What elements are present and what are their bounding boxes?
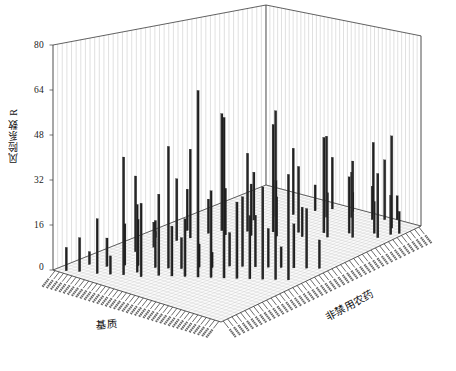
bar bbox=[272, 124, 274, 231]
bar bbox=[241, 197, 243, 267]
row-axis-title: 基质 bbox=[96, 315, 118, 331]
bar bbox=[287, 174, 289, 280]
bar bbox=[254, 215, 256, 267]
bar bbox=[106, 238, 108, 266]
bar bbox=[189, 149, 191, 238]
bar bbox=[197, 90, 199, 277]
bar bbox=[253, 172, 255, 220]
bar bbox=[306, 209, 308, 269]
bar bbox=[123, 157, 125, 275]
z-tick-64: 64 bbox=[22, 85, 44, 95]
figure-3d-bar-chart: 80 64 48 32 16 0 风险系数 R 基质 非禁用农药 bbox=[0, 0, 456, 371]
bar bbox=[221, 114, 223, 231]
chart-scene bbox=[0, 0, 456, 371]
bar bbox=[186, 189, 188, 230]
bar bbox=[293, 224, 295, 268]
bar bbox=[223, 117, 225, 278]
bar bbox=[352, 161, 354, 237]
bar bbox=[88, 252, 90, 265]
bar bbox=[348, 177, 350, 233]
bar bbox=[280, 247, 282, 268]
bar bbox=[65, 247, 67, 270]
bar bbox=[109, 256, 111, 274]
bar bbox=[384, 160, 386, 220]
bar bbox=[377, 174, 379, 238]
bar bbox=[396, 196, 398, 220]
bar bbox=[323, 137, 325, 232]
z-tick-32: 32 bbox=[22, 175, 44, 185]
z-tick-16: 16 bbox=[22, 220, 44, 230]
bar bbox=[246, 153, 248, 231]
bar bbox=[331, 157, 333, 209]
bar bbox=[314, 185, 316, 211]
bar bbox=[167, 146, 169, 268]
z-axis-ticks bbox=[50, 45, 54, 270]
bar bbox=[262, 187, 264, 279]
bar bbox=[371, 186, 373, 219]
bar bbox=[398, 211, 400, 233]
bar bbox=[229, 233, 231, 267]
bar bbox=[236, 202, 238, 278]
bar bbox=[158, 194, 160, 275]
bar bbox=[176, 179, 178, 241]
bar bbox=[140, 203, 142, 277]
bar bbox=[301, 207, 303, 237]
bar bbox=[326, 193, 328, 237]
bar bbox=[180, 238, 182, 269]
bar bbox=[171, 226, 173, 276]
bar bbox=[210, 191, 212, 278]
bar bbox=[292, 148, 294, 214]
z-tick-0: 0 bbox=[22, 262, 44, 272]
bar bbox=[79, 238, 81, 272]
bar bbox=[184, 219, 186, 277]
bar bbox=[275, 111, 277, 280]
bar bbox=[373, 202, 375, 234]
bar bbox=[207, 199, 209, 233]
plot-canvas bbox=[0, 0, 456, 371]
bar bbox=[136, 204, 138, 272]
bar bbox=[390, 195, 392, 234]
z-axis-title: 风险系数 R bbox=[8, 108, 22, 163]
bar bbox=[267, 228, 269, 267]
bar bbox=[297, 166, 299, 232]
bar bbox=[318, 240, 320, 269]
bar bbox=[249, 216, 251, 279]
bar bbox=[96, 219, 98, 274]
bar bbox=[154, 231, 156, 267]
z-tick-48: 48 bbox=[22, 130, 44, 140]
z-tick-80: 80 bbox=[22, 40, 44, 50]
